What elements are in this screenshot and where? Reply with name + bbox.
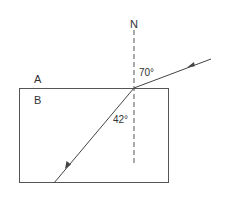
refracted-arrow-icon [65, 161, 71, 169]
refracted-ray [54, 88, 134, 183]
refraction-angle-label: 42° [113, 114, 128, 125]
normal-label: N [130, 18, 138, 30]
incident-arrow-icon [187, 62, 195, 68]
incident-angle-label: 70° [139, 67, 154, 78]
refraction-diagram: N A B 70° 42° [0, 0, 228, 198]
medium-a-label: A [34, 73, 42, 85]
medium-b-label: B [34, 94, 41, 106]
